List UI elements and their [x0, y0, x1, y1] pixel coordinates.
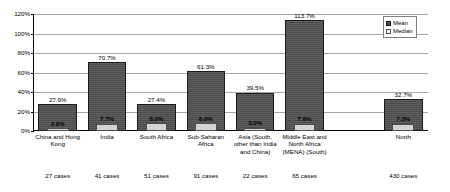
case-count-label: 65 cases	[280, 172, 329, 179]
legend-swatch-mean-icon	[386, 21, 391, 26]
bar-value-label-median: 7.3%	[364, 116, 443, 122]
bar-value-label-mean: 27.9%	[24, 97, 91, 103]
legend-item-mean: Mean	[386, 19, 413, 27]
case-count-label: 430 cases	[379, 172, 428, 179]
y-axis-tick-label: 80%	[2, 50, 30, 56]
chart-legend: Mean Median	[383, 16, 417, 38]
bar-group: 27.4%8.0%	[132, 14, 181, 131]
case-count-row: 27 cases41 cases51 cases91 cases22 cases…	[33, 172, 428, 186]
case-count-label: 51 cases	[132, 172, 181, 179]
y-axis-tick-label: 120%	[2, 11, 30, 17]
x-axis-category-labels: China and Hong KongIndiaSouth AfricaSub-…	[33, 133, 428, 169]
legend-item-median: Median	[386, 27, 413, 35]
x-axis-category-label: South Africa	[132, 133, 181, 140]
x-axis-category-label: Sub-Saharan Africa	[181, 133, 230, 148]
bar-group: 61.3%8.0%	[181, 14, 230, 131]
bar-median	[244, 128, 266, 131]
y-axis-tick-label: 100%	[2, 31, 30, 37]
bar-chart: 0%20%40%60%80%100%120% 27.9%2.8%70.7%7.7…	[0, 0, 450, 192]
x-axis-category-label: China and Hong Kong	[33, 133, 82, 148]
bar-columns: 27.9%2.8%70.7%7.7%27.4%8.0%61.3%8.0%39.5…	[33, 14, 428, 131]
bar-median	[294, 124, 316, 131]
x-axis-category-label: North	[379, 133, 428, 140]
case-count-label: 41 cases	[82, 172, 131, 179]
bar-value-label-median: 7.6%	[265, 116, 344, 122]
bar-group: 27.9%2.8%	[33, 14, 82, 131]
bar-value-label-mean: 32.7%	[370, 92, 437, 98]
bar-median	[96, 124, 118, 132]
y-axis-tick-label: 20%	[2, 109, 30, 115]
bar-value-label-mean: 61.3%	[172, 64, 239, 70]
bar-value-label-mean: 113.7%	[271, 13, 338, 19]
bar-median	[47, 128, 69, 131]
bar-group: 70.7%7.7%	[82, 14, 131, 131]
bar-group: 113.7%7.6%	[280, 14, 329, 131]
legend-label-mean: Mean	[393, 20, 408, 26]
x-axis-category-label: Middle East and North Africa (MENA) (Sou…	[280, 133, 329, 155]
bar-group: 39.5%3.0%	[231, 14, 280, 131]
y-axis-tick-label: 40%	[2, 89, 30, 95]
bar-value-label-mean: 70.7%	[74, 55, 141, 61]
case-count-label: 22 cases	[231, 172, 280, 179]
legend-label-median: Median	[393, 28, 413, 34]
bar-value-label-mean: 27.4%	[123, 97, 190, 103]
y-axis-tick-mark	[31, 131, 34, 132]
y-axis-tick-label: 0%	[2, 128, 30, 134]
case-count-label: 91 cases	[181, 172, 230, 179]
y-axis-tick-label: 60%	[2, 70, 30, 76]
bar-value-label-mean: 39.5%	[222, 85, 289, 91]
x-axis-category-label: Asia (South, other than India and China)	[231, 133, 280, 155]
x-axis-category-label: India	[82, 133, 131, 140]
legend-swatch-median-icon	[386, 29, 391, 34]
case-count-label: 27 cases	[33, 172, 82, 179]
bar-median	[195, 123, 217, 131]
bar-median	[146, 123, 168, 131]
bar-median	[392, 124, 414, 131]
